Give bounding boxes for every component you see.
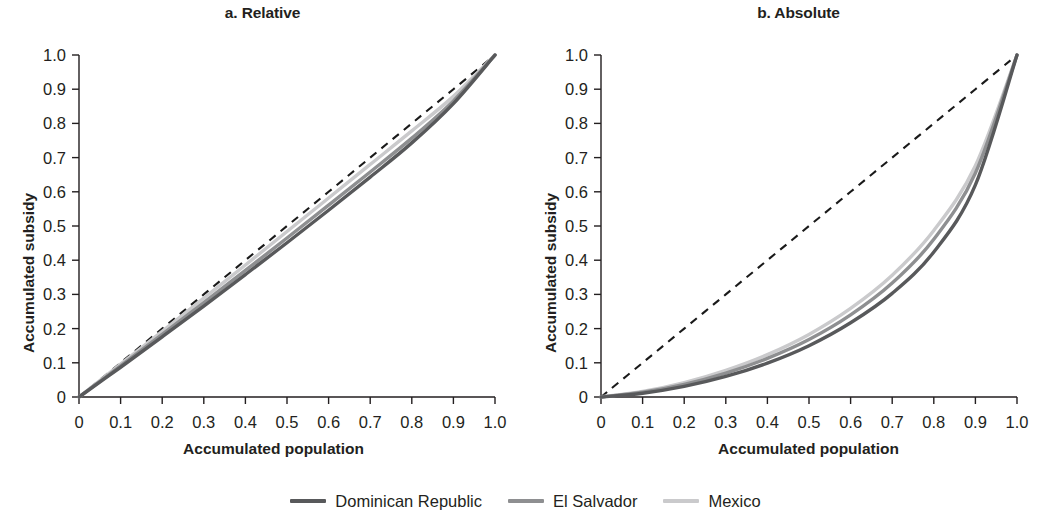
legend-line-swatch bbox=[290, 499, 326, 503]
panel-b-xtick-label: 0.3 bbox=[714, 413, 737, 431]
panel-b-ytick-label: 0.1 bbox=[565, 354, 588, 372]
panel-b-xaxis-title: Accumulated population bbox=[546, 440, 1051, 458]
panel-b-ytick-label: 0.7 bbox=[565, 149, 588, 167]
panel-a-xtick-label: 1.0 bbox=[484, 413, 507, 431]
panel-a-ytick-label: 0.1 bbox=[43, 354, 66, 372]
panel-a-series-line bbox=[79, 55, 495, 397]
panel-b-xtick-label: 0.9 bbox=[964, 413, 987, 431]
panel-b-ytick-label: 0.5 bbox=[565, 217, 588, 235]
figure-container: a. Relative Accumulated subsidy 00.10.20… bbox=[0, 0, 1051, 518]
panel-a-ytick-label: 0 bbox=[57, 388, 66, 406]
legend-item[interactable]: Mexico bbox=[663, 492, 760, 511]
legend-label: El Salvador bbox=[553, 492, 637, 511]
legend-item[interactable]: El Salvador bbox=[508, 492, 637, 511]
legend-line-swatch bbox=[508, 499, 544, 503]
panel-a-ytick-label: 0.9 bbox=[43, 80, 66, 98]
panel-a-ytick-label: 0.4 bbox=[43, 251, 66, 269]
panel-a-ytick-label: 0.3 bbox=[43, 285, 66, 303]
panel-b-xtick-label: 0.8 bbox=[922, 413, 945, 431]
panel-a-ytick-label: 0.5 bbox=[43, 217, 66, 235]
panel-a-ytick-label: 0.8 bbox=[43, 114, 66, 132]
legend-label: Dominican Republic bbox=[335, 492, 482, 511]
panel-b-series-line bbox=[601, 55, 1017, 397]
panel-b-ytick-label: 0.9 bbox=[565, 80, 588, 98]
panel-a-xtick-label: 0.8 bbox=[400, 413, 423, 431]
panel-b-xtick-label: 0 bbox=[596, 413, 605, 431]
panel-a-plot: 00.10.20.30.40.50.60.70.80.91.000.10.20.… bbox=[0, 0, 525, 440]
panel-a-xtick-label: 0.2 bbox=[151, 413, 174, 431]
legend-label: Mexico bbox=[708, 492, 760, 511]
panel-a-xtick-label: 0.3 bbox=[192, 413, 215, 431]
panel-b-ytick-label: 0.2 bbox=[565, 320, 588, 338]
panel-absolute: b. Absolute Accumulated subsidy 00.10.20… bbox=[522, 0, 1047, 480]
panel-b-ytick-label: 0.6 bbox=[565, 183, 588, 201]
panel-b-xtick-label: 1.0 bbox=[1006, 413, 1029, 431]
panel-b-ytick-label: 1.0 bbox=[565, 46, 588, 64]
panel-a-xtick-label: 0 bbox=[74, 413, 83, 431]
panel-a-xaxis-title: Accumulated population bbox=[11, 440, 536, 458]
panel-b-xtick-label: 0.5 bbox=[798, 413, 821, 431]
panel-a-xtick-label: 0.1 bbox=[109, 413, 132, 431]
panel-b-ytick-label: 0.4 bbox=[565, 251, 588, 269]
legend-line-swatch bbox=[663, 499, 699, 503]
panel-b-xtick-label: 0.1 bbox=[631, 413, 654, 431]
panel-a-xtick-label: 0.6 bbox=[317, 413, 340, 431]
panel-a-xtick-label: 0.9 bbox=[442, 413, 465, 431]
panel-a-ytick-label: 1.0 bbox=[43, 46, 66, 64]
panel-relative: a. Relative Accumulated subsidy 00.10.20… bbox=[0, 0, 525, 480]
panel-b-plot: 00.10.20.30.40.50.60.70.80.91.000.10.20.… bbox=[522, 0, 1047, 440]
panel-a-xtick-label: 0.5 bbox=[276, 413, 299, 431]
panel-b-xtick-label: 0.2 bbox=[673, 413, 696, 431]
panel-a-xtick-label: 0.7 bbox=[359, 413, 382, 431]
panel-b-xtick-label: 0.7 bbox=[881, 413, 904, 431]
panel-b-xtick-label: 0.6 bbox=[839, 413, 862, 431]
panel-b-ytick-label: 0.8 bbox=[565, 114, 588, 132]
panel-a-xtick-label: 0.4 bbox=[234, 413, 257, 431]
panel-b-xtick-label: 0.4 bbox=[756, 413, 779, 431]
legend-item[interactable]: Dominican Republic bbox=[290, 492, 482, 511]
panel-a-ytick-label: 0.2 bbox=[43, 320, 66, 338]
legend: Dominican RepublicEl SalvadorMexico bbox=[0, 484, 1051, 518]
panel-b-ytick-label: 0.3 bbox=[565, 285, 588, 303]
panel-a-ytick-label: 0.7 bbox=[43, 149, 66, 167]
panel-b-ytick-label: 0 bbox=[579, 388, 588, 406]
panel-a-ytick-label: 0.6 bbox=[43, 183, 66, 201]
